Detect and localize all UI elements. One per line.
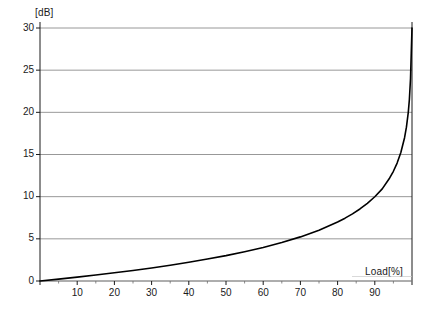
x-tick-label-70: 70 [285, 287, 315, 298]
y-tick-label-15: 15 [8, 148, 34, 159]
x-tick-label-50: 50 [211, 287, 241, 298]
y-tick-label-25: 25 [8, 64, 34, 75]
x-tick-label-40: 40 [174, 287, 204, 298]
x-tick-label-60: 60 [248, 287, 278, 298]
cut-off-caption [8, 307, 158, 318]
chart-plot-area [0, 0, 428, 319]
x-tick-label-20: 20 [99, 287, 129, 298]
y-tick-label-5: 5 [8, 232, 34, 243]
x-tick-label-90: 90 [360, 287, 390, 298]
x-tick-label-10: 10 [62, 287, 92, 298]
chart-figure: [dB] Load[%] 051015202530 10203040506070… [0, 0, 428, 319]
y-tick-label-10: 10 [8, 190, 34, 201]
x-tick-label-80: 80 [323, 287, 353, 298]
y-tick-label-20: 20 [8, 106, 34, 117]
x-tick-label-30: 30 [137, 287, 167, 298]
y-tick-label-30: 30 [8, 22, 34, 33]
y-tick-label-0: 0 [8, 275, 34, 286]
